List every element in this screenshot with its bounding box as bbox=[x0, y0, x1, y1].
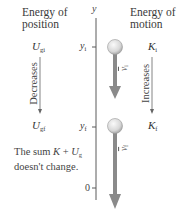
velocity-label-final: vf bbox=[119, 145, 129, 151]
y-axis-label: y bbox=[92, 3, 96, 14]
ball-final bbox=[108, 119, 123, 134]
tick-label-yi: yi bbox=[80, 40, 86, 52]
velocity-arrow-final-head bbox=[109, 194, 121, 209]
potential-trend-label: Decreases bbox=[28, 59, 39, 109]
velocity-arrow-initial-head bbox=[109, 86, 121, 99]
kinetic-energy-initial: Ki bbox=[148, 40, 157, 53]
increases-arrowhead bbox=[150, 109, 154, 114]
velocity-arrow-initial-shaft bbox=[113, 52, 117, 88]
kinetic-energy-final: Kf bbox=[148, 119, 158, 132]
energy-diagram-graphics bbox=[0, 0, 180, 217]
velocity-arrow-final-shaft bbox=[113, 132, 117, 196]
ball-initial bbox=[108, 40, 123, 55]
decreases-arrowhead bbox=[38, 109, 42, 114]
tick-label-yf: yf bbox=[80, 120, 87, 132]
conservation-note: The sum K + Ug doesn't change. bbox=[14, 146, 82, 173]
kinetic-trend-label: Increases bbox=[140, 59, 151, 109]
potential-energy-initial: Ugi bbox=[32, 40, 45, 53]
note-line1: The sum K + Ug bbox=[14, 146, 82, 161]
tick-label-zero: 0 bbox=[85, 182, 90, 193]
note-line2: doesn't change. bbox=[14, 161, 82, 173]
velocity-label-initial: vi bbox=[119, 65, 129, 71]
potential-energy-final: Ugf bbox=[32, 119, 45, 132]
